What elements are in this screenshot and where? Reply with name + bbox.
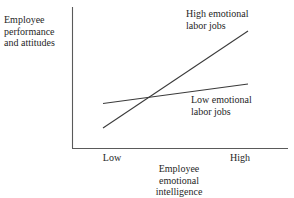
series-annotation-low-emotional-labor: Low emotional labor jobs: [191, 94, 291, 117]
x-tick-label-high: High: [222, 152, 258, 164]
x-axis-label: Employee emotional intelligence: [140, 163, 218, 198]
y-axis-label: Employee performance and attitudes: [4, 14, 68, 49]
x-tick-label-low: Low: [95, 152, 129, 164]
figure-container: Employee performance and attitudes Low H…: [0, 0, 294, 198]
series-annotation-high-emotional-labor: High emotional labor jobs: [186, 8, 292, 31]
